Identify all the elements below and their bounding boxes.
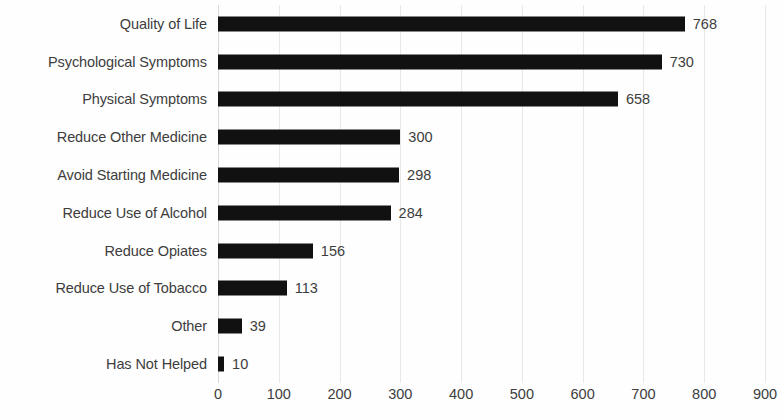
bar[interactable] (218, 281, 287, 296)
x-tick-label: 800 (692, 386, 716, 402)
bar-value-label: 39 (250, 318, 266, 334)
bar-value-label: 658 (626, 91, 650, 107)
category-label: Reduce Opiates (104, 243, 207, 259)
category-label: Avoid Starting Medicine (57, 167, 207, 183)
bar[interactable] (218, 319, 242, 334)
bar[interactable] (218, 54, 662, 69)
bar-value-label: 768 (693, 16, 717, 32)
category-label: Other (171, 318, 207, 334)
bar-value-label: 284 (399, 205, 423, 221)
bar[interactable] (218, 92, 618, 107)
x-tick-label: 400 (449, 386, 473, 402)
bar[interactable] (218, 205, 391, 220)
x-tick-label: 300 (388, 386, 412, 402)
bar-row: Reduce Other Medicine300 (218, 118, 765, 156)
bar-value-label: 113 (295, 280, 318, 296)
x-tick-label: 0 (214, 386, 222, 402)
bar-row: Reduce Use of Tobacco113 (218, 270, 765, 308)
bar-row: Has Not Helped10 (218, 345, 765, 383)
x-tick-label: 200 (327, 386, 351, 402)
category-label: Psychological Symptoms (48, 54, 207, 70)
bar-row: Reduce Use of Alcohol284 (218, 194, 765, 232)
bar[interactable] (218, 168, 399, 183)
bar-row: Avoid Starting Medicine298 (218, 156, 765, 194)
bar-value-label: 156 (321, 243, 345, 259)
bar-row: Physical Symptoms658 (218, 81, 765, 119)
x-tick-label: 700 (631, 386, 655, 402)
x-tick-label: 600 (571, 386, 595, 402)
category-label: Quality of Life (120, 16, 207, 32)
bar-row: Reduce Opiates156 (218, 232, 765, 270)
bar-value-label: 300 (408, 129, 432, 145)
bar-value-label: 10 (232, 356, 248, 372)
bar-row: Psychological Symptoms730 (218, 43, 765, 81)
bar-row: Quality of Life768 (218, 5, 765, 43)
bar-chart: Quality of Life768Psychological Symptoms… (0, 0, 782, 420)
bar[interactable] (218, 243, 313, 258)
plot-area: Quality of Life768Psychological Symptoms… (218, 5, 765, 383)
bar-value-label: 298 (407, 167, 431, 183)
bar[interactable] (218, 16, 685, 31)
bar-row: Other39 (218, 307, 765, 345)
category-label: Physical Symptoms (82, 91, 207, 107)
bar-rows: Quality of Life768Psychological Symptoms… (218, 5, 765, 383)
x-tick-label: 100 (267, 386, 291, 402)
category-label: Reduce Use of Tobacco (55, 280, 207, 296)
x-tick-label: 500 (510, 386, 534, 402)
category-label: Has Not Helped (106, 356, 207, 372)
x-tick-label: 900 (753, 386, 777, 402)
gridline-900 (765, 5, 766, 383)
bar[interactable] (218, 357, 224, 372)
bar-value-label: 730 (670, 54, 694, 70)
category-label: Reduce Use of Alcohol (62, 205, 207, 221)
bar[interactable] (218, 130, 400, 145)
category-label: Reduce Other Medicine (57, 129, 207, 145)
x-axis-tick-labels: 0100200300400500600700800900 (218, 386, 765, 414)
